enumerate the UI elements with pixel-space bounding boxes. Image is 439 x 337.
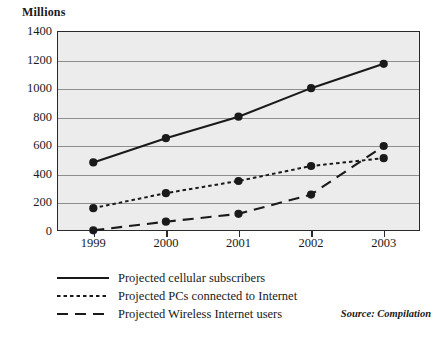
data-point-marker — [162, 134, 170, 142]
y-axis-tick-label: 600 — [6, 138, 52, 153]
y-axis-tick-label: 1000 — [6, 81, 52, 96]
data-point-marker — [307, 162, 315, 170]
data-point-marker — [162, 218, 170, 226]
data-point-marker — [162, 189, 170, 197]
x-axis-tick-label: 2003 — [352, 236, 416, 251]
y-axis-tick-label: 1400 — [6, 24, 52, 39]
x-axis-tick-label: 2001 — [207, 236, 271, 251]
data-point-marker — [380, 60, 388, 68]
y-axis-tick-label: 800 — [6, 109, 52, 124]
legend-item: Projected Wireless Internet users — [57, 306, 297, 322]
source-note: Source: Compilation — [341, 308, 431, 319]
legend-item-label: Projected cellular subscribers — [118, 272, 265, 285]
legend-item: Projected cellular subscribers — [57, 270, 297, 286]
data-point-marker — [234, 210, 242, 218]
legend-item: Projected PCs connected to Internet — [57, 288, 297, 304]
chart-figure: Millions 0200400600800100012001400 19992… — [0, 0, 439, 337]
series-dotted — [89, 154, 388, 212]
legend-swatch-dotted — [57, 290, 109, 302]
data-point-marker — [307, 84, 315, 92]
y-axis-tick-label: 0 — [6, 224, 52, 239]
legend-swatch-solid — [57, 272, 109, 284]
data-point-marker — [380, 154, 388, 162]
y-axis-tick-label: 200 — [6, 195, 52, 210]
data-point-marker — [234, 177, 242, 185]
series-data-layer — [57, 31, 420, 231]
data-point-marker — [307, 190, 315, 198]
x-axis-tick-label: 2000 — [134, 236, 198, 251]
data-point-marker — [89, 204, 97, 212]
y-axis-tick-label: 400 — [6, 166, 52, 181]
legend-item-label: Projected PCs connected to Internet — [118, 290, 297, 303]
x-axis-tick-label: 2002 — [279, 236, 343, 251]
legend-item-label: Projected Wireless Internet users — [118, 308, 282, 321]
y-axis-tick-labels: 0200400600800100012001400 — [0, 0, 52, 337]
chart-legend: Projected cellular subscribersProjected … — [57, 270, 297, 324]
data-point-marker — [234, 113, 242, 121]
series-solid — [89, 60, 388, 167]
y-axis-tick-label: 1200 — [6, 52, 52, 67]
data-point-marker — [380, 142, 388, 150]
x-axis-tick-label: 1999 — [61, 236, 125, 251]
data-point-marker — [89, 158, 97, 166]
data-point-marker — [89, 226, 97, 234]
legend-swatch-dashed — [57, 308, 109, 320]
series-dashed — [89, 142, 388, 234]
